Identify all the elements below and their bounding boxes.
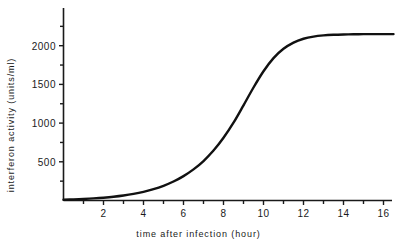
x-tick-label: 4 <box>140 208 146 219</box>
x-tick-label: 16 <box>377 208 389 219</box>
chart-figure: interferon activity (units/ml) time afte… <box>0 0 397 249</box>
y-tick-label: 2000 <box>14 40 56 51</box>
x-axis-title: time after infection (hour) <box>0 229 397 239</box>
y-tick-label: 1000 <box>14 118 56 129</box>
x-tick-label: 10 <box>257 208 269 219</box>
data-curve-interferon <box>64 34 394 200</box>
x-tick-label: 6 <box>180 208 186 219</box>
x-tick-label: 2 <box>100 208 106 219</box>
y-tick-label: 500 <box>14 156 56 167</box>
x-tick-label: 8 <box>220 208 226 219</box>
x-tick-label: 14 <box>337 208 349 219</box>
x-tick-label: 12 <box>297 208 309 219</box>
y-tick-label: 1500 <box>14 79 56 90</box>
